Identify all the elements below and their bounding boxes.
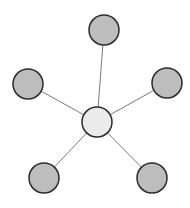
nodes-group bbox=[13, 15, 182, 193]
node-hub bbox=[82, 107, 112, 137]
node-leaf-left bbox=[13, 69, 43, 99]
node-leaf-top bbox=[89, 15, 119, 45]
node-leaf-bottom-left bbox=[29, 163, 59, 193]
edges-group bbox=[28, 30, 167, 178]
node-leaf-right bbox=[152, 68, 182, 98]
node-leaf-bottom-right bbox=[137, 163, 167, 193]
star-graph-diagram bbox=[0, 0, 190, 208]
